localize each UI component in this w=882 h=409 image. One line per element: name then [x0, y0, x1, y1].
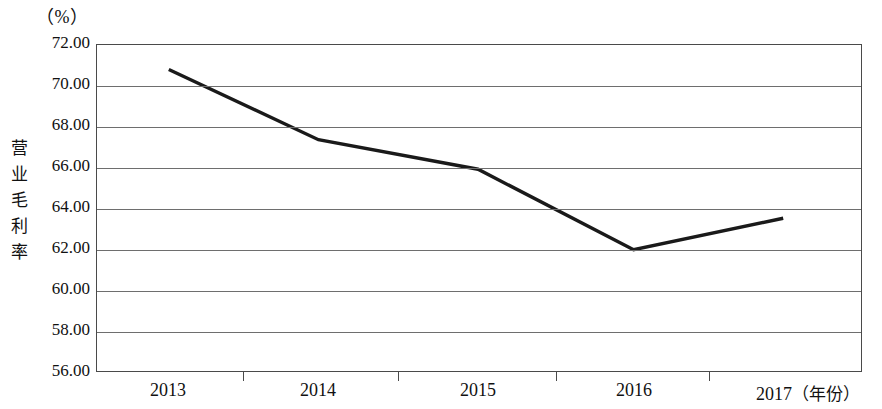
- x-axis-tickmark: [243, 372, 244, 381]
- series-line-chart: [97, 45, 861, 371]
- y-axis-tick-label: 66.00: [28, 156, 90, 176]
- x-axis-tick-label: 2014: [300, 380, 336, 401]
- x-axis-year-text: 2016: [616, 380, 652, 400]
- y-axis-tick-labels: 72.0070.0068.0066.0064.0062.0060.0058.00…: [28, 0, 90, 409]
- y-axis-tick-label: 62.00: [28, 238, 90, 258]
- series-polyline-operating-gross-margin: [169, 69, 783, 249]
- x-axis-tickmark: [398, 372, 399, 381]
- y-axis-tick-label: 56.00: [28, 361, 90, 381]
- x-axis-year-text: 2017: [756, 384, 792, 404]
- x-axis-tick-label: 2015: [460, 380, 496, 401]
- x-axis-unit-label: （年份）: [792, 385, 860, 404]
- x-axis-year-text: 2013: [150, 380, 186, 400]
- y-axis-tick-label: 68.00: [28, 115, 90, 135]
- x-axis-tick-label: 2013: [150, 380, 186, 401]
- gridline: [97, 168, 861, 169]
- x-axis-year-text: 2015: [460, 380, 496, 400]
- y-axis-tick-label: 70.00: [28, 74, 90, 94]
- gridline: [97, 291, 861, 292]
- x-axis-tickmark: [556, 372, 557, 381]
- x-axis-tickmark: [709, 372, 710, 381]
- gridline: [97, 127, 861, 128]
- x-axis-tick-label: 2016: [616, 380, 652, 401]
- gridline: [97, 86, 861, 87]
- gridline: [97, 332, 861, 333]
- x-axis-tick-label: 2017（年份）: [756, 380, 860, 405]
- chart-figure: （%） 营 业 毛 利 率 72.0070.0068.0066.0064.006…: [0, 0, 882, 409]
- y-axis-tick-label: 60.00: [28, 279, 90, 299]
- y-axis-tick-label: 72.00: [28, 33, 90, 53]
- y-axis-tick-label: 58.00: [28, 320, 90, 340]
- gridline: [97, 250, 861, 251]
- y-axis-tick-label: 64.00: [28, 197, 90, 217]
- x-axis-year-text: 2014: [300, 380, 336, 400]
- plot-area: [96, 44, 862, 372]
- gridline: [97, 209, 861, 210]
